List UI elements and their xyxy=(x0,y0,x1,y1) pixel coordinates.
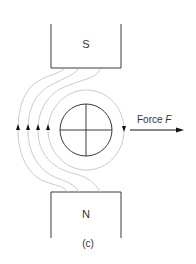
arrow-up-icon xyxy=(36,124,40,130)
arrow-up-icon xyxy=(46,124,50,130)
arrow-right-icon xyxy=(176,128,184,133)
arrow-up-icon xyxy=(26,124,30,130)
arrow-down-icon xyxy=(122,126,126,132)
north-pole-magnet: N xyxy=(51,192,121,238)
force-arrow: Force F xyxy=(130,114,184,133)
field-direction-arrows xyxy=(16,124,126,132)
arrow-up-icon xyxy=(16,124,20,130)
north-pole-label: N xyxy=(82,208,90,220)
south-pole-magnet: S xyxy=(51,24,121,68)
figure-caption: (c) xyxy=(82,238,94,249)
force-label: Force F xyxy=(137,114,172,125)
south-pole-label: S xyxy=(82,38,89,50)
conductor xyxy=(60,104,112,156)
motor-principle-diagram: S N Force F (c) xyxy=(0,0,196,264)
